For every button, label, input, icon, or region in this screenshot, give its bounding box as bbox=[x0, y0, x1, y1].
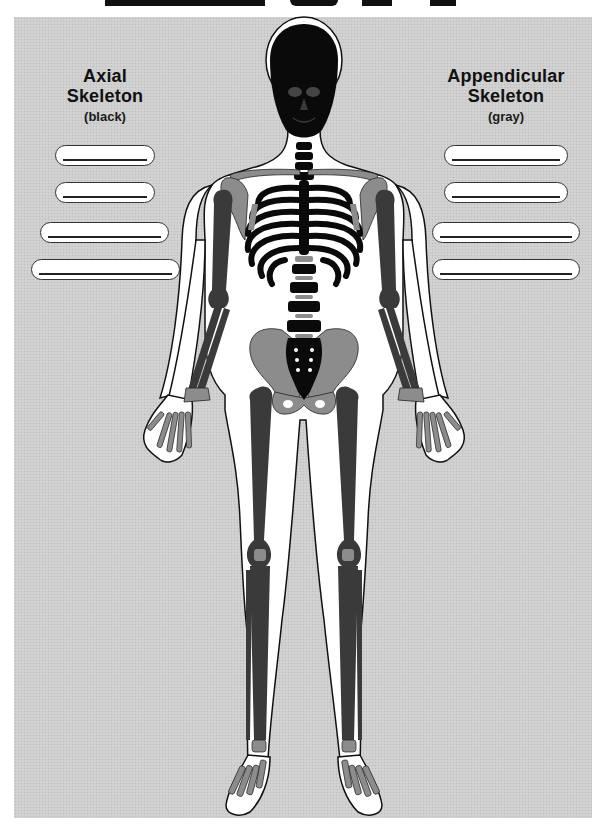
skeleton-figure: .ax { fill: #0a0a0a; } .apd { fill: #3a3… bbox=[0, 0, 608, 834]
skull bbox=[266, 17, 342, 138]
